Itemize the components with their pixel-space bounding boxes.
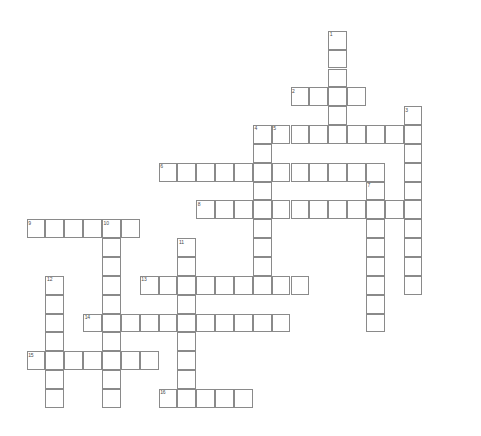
crossword-cell[interactable] xyxy=(291,87,310,106)
crossword-cell[interactable] xyxy=(253,314,272,333)
crossword-cell[interactable] xyxy=(404,257,423,276)
crossword-cell[interactable] xyxy=(347,200,366,219)
crossword-cell[interactable] xyxy=(366,125,385,144)
crossword-cell[interactable] xyxy=(121,314,140,333)
crossword-cell[interactable] xyxy=(83,314,102,333)
crossword-cell[interactable] xyxy=(196,163,215,182)
crossword-cell[interactable] xyxy=(309,125,328,144)
crossword-cell[interactable] xyxy=(215,389,234,408)
crossword-cell[interactable] xyxy=(404,276,423,295)
crossword-cell[interactable] xyxy=(366,200,385,219)
crossword-cell[interactable] xyxy=(385,125,404,144)
crossword-cell[interactable] xyxy=(234,314,253,333)
crossword-cell[interactable] xyxy=(309,87,328,106)
crossword-cell[interactable] xyxy=(234,389,253,408)
crossword-cell[interactable] xyxy=(215,200,234,219)
crossword-cell[interactable] xyxy=(366,182,385,201)
crossword-cell[interactable] xyxy=(64,351,83,370)
crossword-cell[interactable] xyxy=(196,314,215,333)
crossword-cell[interactable] xyxy=(177,163,196,182)
crossword-cell[interactable] xyxy=(253,276,272,295)
crossword-cell[interactable] xyxy=(253,238,272,257)
crossword-cell[interactable] xyxy=(45,219,64,238)
crossword-cell[interactable] xyxy=(404,182,423,201)
crossword-cell[interactable] xyxy=(328,125,347,144)
crossword-cell[interactable] xyxy=(385,200,404,219)
crossword-cell[interactable] xyxy=(366,219,385,238)
crossword-cell[interactable] xyxy=(328,163,347,182)
crossword-cell[interactable] xyxy=(253,144,272,163)
crossword-cell[interactable] xyxy=(291,125,310,144)
crossword-cell[interactable] xyxy=(404,219,423,238)
crossword-cell[interactable] xyxy=(27,351,46,370)
crossword-cell[interactable] xyxy=(177,332,196,351)
crossword-cell[interactable] xyxy=(366,163,385,182)
crossword-cell[interactable] xyxy=(215,276,234,295)
crossword-cell[interactable] xyxy=(45,351,64,370)
crossword-cell[interactable] xyxy=(196,200,215,219)
crossword-cell[interactable] xyxy=(234,163,253,182)
crossword-cell[interactable] xyxy=(140,314,159,333)
crossword-cell[interactable] xyxy=(366,276,385,295)
crossword-cell[interactable] xyxy=(45,295,64,314)
crossword-cell[interactable] xyxy=(272,276,291,295)
crossword-cell[interactable] xyxy=(177,314,196,333)
crossword-cell[interactable] xyxy=(102,238,121,257)
crossword-cell[interactable] xyxy=(253,182,272,201)
crossword-cell[interactable] xyxy=(177,351,196,370)
crossword-cell[interactable] xyxy=(366,257,385,276)
crossword-cell[interactable] xyxy=(366,238,385,257)
crossword-cell[interactable] xyxy=(140,351,159,370)
crossword-cell[interactable] xyxy=(159,389,178,408)
crossword-cell[interactable] xyxy=(177,370,196,389)
crossword-cell[interactable] xyxy=(177,238,196,257)
crossword-cell[interactable] xyxy=(102,370,121,389)
crossword-cell[interactable] xyxy=(215,163,234,182)
crossword-cell[interactable] xyxy=(309,200,328,219)
crossword-cell[interactable] xyxy=(234,200,253,219)
crossword-cell[interactable] xyxy=(159,276,178,295)
crossword-cell[interactable] xyxy=(404,163,423,182)
crossword-cell[interactable] xyxy=(102,257,121,276)
crossword-cell[interactable] xyxy=(102,351,121,370)
crossword-cell[interactable] xyxy=(45,314,64,333)
crossword-cell[interactable] xyxy=(328,200,347,219)
crossword-cell[interactable] xyxy=(347,163,366,182)
crossword-cell[interactable] xyxy=(404,125,423,144)
crossword-cell[interactable] xyxy=(272,163,291,182)
crossword-cell[interactable] xyxy=(102,219,121,238)
crossword-cell[interactable] xyxy=(291,276,310,295)
crossword-cell[interactable] xyxy=(253,257,272,276)
crossword-cell[interactable] xyxy=(291,200,310,219)
crossword-cell[interactable] xyxy=(347,87,366,106)
crossword-cell[interactable] xyxy=(404,200,423,219)
crossword-cell[interactable] xyxy=(272,200,291,219)
crossword-cell[interactable] xyxy=(102,389,121,408)
crossword-cell[interactable] xyxy=(102,314,121,333)
crossword-cell[interactable] xyxy=(45,332,64,351)
crossword-cell[interactable] xyxy=(102,276,121,295)
crossword-cell[interactable] xyxy=(196,389,215,408)
crossword-cell[interactable] xyxy=(140,276,159,295)
crossword-cell[interactable] xyxy=(45,276,64,295)
crossword-cell[interactable] xyxy=(159,314,178,333)
crossword-cell[interactable] xyxy=(177,257,196,276)
crossword-cell[interactable] xyxy=(177,276,196,295)
crossword-cell[interactable] xyxy=(328,69,347,88)
crossword-cell[interactable] xyxy=(328,87,347,106)
crossword-cell[interactable] xyxy=(83,351,102,370)
crossword-cell[interactable] xyxy=(253,163,272,182)
crossword-cell[interactable] xyxy=(159,163,178,182)
crossword-cell[interactable] xyxy=(45,370,64,389)
crossword-cell[interactable] xyxy=(196,276,215,295)
crossword-cell[interactable] xyxy=(234,276,253,295)
crossword-cell[interactable] xyxy=(121,219,140,238)
crossword-cell[interactable] xyxy=(328,50,347,69)
crossword-cell[interactable] xyxy=(253,125,272,144)
crossword-cell[interactable] xyxy=(272,314,291,333)
crossword-cell[interactable] xyxy=(404,106,423,125)
crossword-cell[interactable] xyxy=(215,314,234,333)
crossword-cell[interactable] xyxy=(309,163,328,182)
crossword-cell[interactable] xyxy=(27,219,46,238)
crossword-cell[interactable] xyxy=(253,219,272,238)
